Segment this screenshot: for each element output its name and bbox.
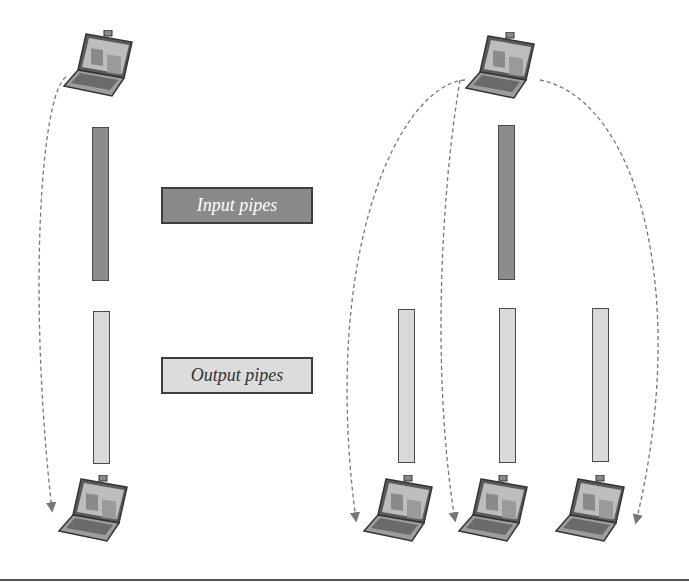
laptop-icon-right-source <box>462 32 542 104</box>
laptop-icon-left-destination <box>55 475 135 547</box>
right-output-pipe-3 <box>592 308 609 462</box>
arrow-left <box>39 77 66 510</box>
right-output-pipe-1 <box>398 309 415 463</box>
input-pipes-legend: Input pipes <box>161 187 313 224</box>
bottom-divider <box>0 579 689 581</box>
input-pipes-label: Input pipes <box>197 195 278 216</box>
laptop-icon-left-source <box>60 30 140 102</box>
right-input-pipe <box>498 125 515 280</box>
laptop-icon-right-destination-2 <box>455 475 535 547</box>
laptop-icon-right-destination-3 <box>552 475 632 547</box>
arrow-right-2 <box>441 80 460 520</box>
left-output-pipe <box>93 311 110 464</box>
output-pipes-legend: Output pipes <box>161 357 313 394</box>
output-pipes-label: Output pipes <box>191 365 284 386</box>
laptop-icon-right-destination-1 <box>360 475 440 547</box>
left-input-pipe <box>92 127 109 281</box>
right-output-pipe-2 <box>499 308 516 463</box>
